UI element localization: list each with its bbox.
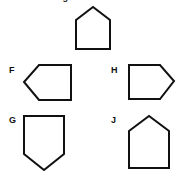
question-figure: ased on the figure F H G J bbox=[0, 0, 181, 171]
choice-label-j: J bbox=[111, 116, 116, 125]
choice-label-g: G bbox=[9, 116, 16, 125]
choice-shape-f[interactable] bbox=[23, 64, 72, 101]
choice-shape-h-polygon[interactable] bbox=[129, 65, 174, 99]
choice-label-h: H bbox=[111, 66, 118, 75]
clipped-prompt-text: ased on the figure bbox=[3, 0, 82, 2]
choice-label-f: F bbox=[9, 66, 15, 75]
reference-shape bbox=[75, 6, 111, 50]
choice-shape-h-svg[interactable] bbox=[128, 64, 175, 100]
choice-shape-g-svg[interactable] bbox=[23, 115, 66, 171]
choice-shape-g[interactable] bbox=[23, 115, 66, 171]
choice-shape-f-polygon[interactable] bbox=[24, 65, 71, 100]
choice-shape-h[interactable] bbox=[128, 64, 175, 100]
reference-shape-svg bbox=[75, 6, 111, 50]
choice-shape-j[interactable] bbox=[128, 115, 171, 169]
choice-shape-j-polygon[interactable] bbox=[129, 116, 169, 168]
choice-shape-f-svg[interactable] bbox=[23, 64, 72, 101]
choice-shape-j-svg[interactable] bbox=[128, 115, 171, 169]
choice-shape-g-polygon[interactable] bbox=[24, 116, 64, 170]
reference-shape-polygon bbox=[76, 7, 110, 49]
